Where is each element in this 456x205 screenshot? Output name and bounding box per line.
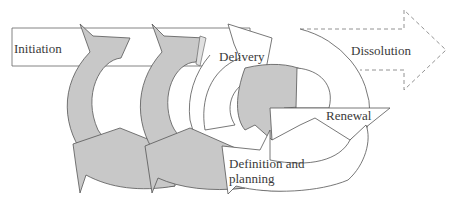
diagram-graphic — [0, 0, 456, 205]
delivery-label: Delivery — [219, 50, 264, 64]
renewal-label: Renewal — [326, 109, 371, 123]
lifecycle-diagram: Initiation Delivery Dissolution Renewal … — [0, 0, 456, 205]
dissolution-label: Dissolution — [351, 44, 411, 58]
definition-label: Definition and planning — [229, 156, 309, 186]
initiation-label: Initiation — [14, 42, 62, 56]
